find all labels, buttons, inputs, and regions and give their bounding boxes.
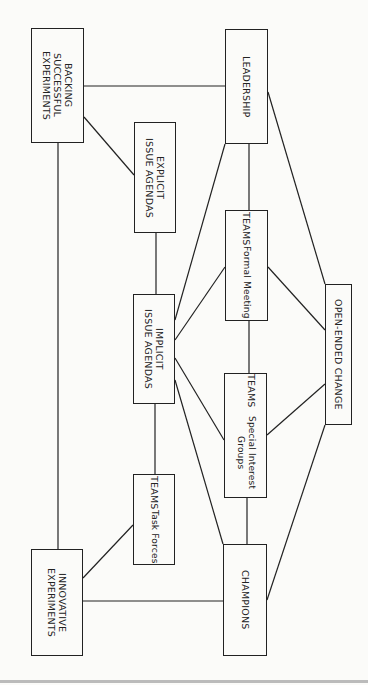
node-sublabel: Formal Meeting: [241, 246, 252, 319]
node-innovative-experiments: INNOVATIVE EXPERIMENTS: [31, 549, 83, 656]
node-teams-task-forces: TEAMS Task Forces: [133, 474, 175, 565]
node-label: TEAMS: [149, 476, 160, 510]
node-teams-formal-meeting: TEAMS Formal Meeting: [225, 210, 268, 321]
node-champions: CHAMPIONS: [223, 544, 267, 656]
node-open-ended-change: OPEN-ENDED CHANGE: [325, 284, 352, 425]
page-edge-divider: [0, 680, 368, 683]
node-teams-special-interest-groups: TEAMS Special Interest Groups: [224, 373, 267, 498]
node-backing-successful-experiments: BACKING SUCCESSFUL EXPERIMENTS: [31, 28, 84, 143]
node-leadership: LEADERSHIP: [225, 29, 268, 144]
node-label: CHAMPIONS: [240, 570, 251, 629]
node-label: EXPLICIT ISSUE AGENDAS: [144, 138, 166, 218]
node-label: TEAMS: [235, 374, 257, 408]
node-label: IMPLICIT ISSUE AGENDAS: [143, 309, 165, 389]
node-implicit-issue-agendas: IMPLICIT ISSUE AGENDAS: [133, 294, 175, 404]
node-label: TEAMS: [241, 212, 252, 246]
node-explicit-issue-agendas: EXPLICIT ISSUE AGENDAS: [134, 122, 176, 233]
node-sublabel: Task Forces: [149, 510, 160, 564]
node-sublabel: Special Interest Groups: [235, 408, 257, 497]
node-label: OPEN-ENDED CHANGE: [333, 299, 344, 410]
node-label: BACKING SUCCESSFUL EXPERIMENTS: [41, 51, 74, 120]
node-label: INNOVATIVE EXPERIMENTS: [46, 568, 68, 637]
node-label: LEADERSHIP: [241, 56, 252, 117]
